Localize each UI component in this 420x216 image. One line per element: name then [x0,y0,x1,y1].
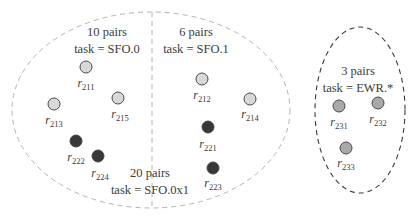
node-circle-icon [202,121,214,133]
node-label: r231 [330,115,347,131]
node-label: r215 [111,107,128,123]
node-label: r224 [91,166,109,182]
node-label: r221 [199,137,216,153]
group-task-label: task = SFO.1 [163,42,229,56]
group-task-label: task = EWR.* [323,81,394,95]
node-circle-icon [70,135,82,147]
node-label: r223 [204,176,221,192]
group-count-label: 10 pairs [87,25,127,39]
node-r213: r213 [45,98,62,129]
node-label: r212 [193,88,210,104]
node-r221: r221 [199,121,216,153]
node-circle-icon [112,92,124,104]
node-circle-icon [207,162,219,174]
group-count-label: 20 pairs [130,166,170,180]
node-circle-icon [80,61,92,73]
node-circle-icon [48,98,60,110]
node-circle-icon [333,100,345,112]
node-circle-icon [196,73,208,85]
node-r231: r231 [330,100,347,131]
node-circle-icon [92,150,104,162]
node-label: r233 [337,156,354,172]
node-r232: r232 [369,97,386,128]
node-label: r213 [45,113,62,129]
node-r214: r214 [241,93,259,123]
node-circle-icon [372,97,384,109]
node-circle-icon [244,93,256,105]
node-r223: r223 [204,162,221,192]
node-r215: r215 [111,92,128,123]
node-label: r232 [369,112,386,128]
node-r211: r211 [77,61,94,92]
ewr-cluster-ellipse [315,27,405,193]
node-label: r214 [241,107,259,123]
group-task-label: task = SFO.0 [74,42,140,56]
group-count-label: 6 pairs [179,25,213,39]
group-task-label: task = SFO.0x1 [111,183,189,197]
node-label: r211 [77,76,94,92]
node-r222: r222 [67,135,84,166]
node-r224: r224 [91,150,109,182]
node-label: r222 [67,150,84,166]
cluster-diagram: 10 pairstask = SFO.06 pairstask = SFO.12… [0,0,420,216]
node-r233: r233 [337,142,354,172]
node-circle-icon [340,142,352,154]
group-count-label: 3 pairs [341,64,375,78]
node-r212: r212 [193,73,210,104]
